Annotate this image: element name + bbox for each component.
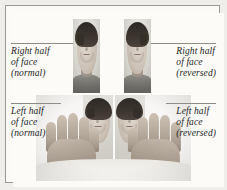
- leader-line-top-right: [151, 43, 216, 44]
- jaw-shadow: [80, 52, 94, 63]
- leader-line-bottom-left: [11, 103, 61, 104]
- label-line-3: (normal): [11, 128, 46, 139]
- label-right-half-reversed: Right half of face (reversed): [176, 46, 216, 80]
- leader-line-top-left: [11, 43, 73, 44]
- jaw-shadow: [130, 52, 144, 63]
- label-line-1: Right half: [176, 46, 216, 57]
- label-line-3: (normal): [11, 68, 50, 79]
- label-left-half-reversed: Left half of face (reversed): [176, 106, 216, 140]
- label-right-half-normal: Right half of face (normal): [11, 46, 50, 80]
- label-line-2: of face: [176, 117, 216, 128]
- label-line-3: (reversed): [176, 68, 216, 79]
- label-line-1: Right half: [11, 46, 50, 57]
- table-surface: [36, 159, 191, 181]
- figure-container: Right half of face (normal) Right half o…: [0, 0, 227, 190]
- hair: [126, 22, 149, 47]
- label-left-half-normal: Left half of face (normal): [11, 106, 46, 140]
- photo-bottom-composite: [36, 95, 191, 181]
- label-line-3: (reversed): [176, 128, 216, 139]
- leader-line-bottom-right: [166, 103, 216, 104]
- label-line-1: Left half: [11, 106, 46, 117]
- photo-right-half-normal: [73, 19, 100, 93]
- portrait-reversed: [124, 19, 151, 93]
- label-line-2: of face: [176, 57, 216, 68]
- portrait-normal: [73, 19, 100, 93]
- photo-right-half-reversed: [124, 19, 151, 93]
- label-line-2: of face: [11, 57, 50, 68]
- label-line-1: Left half: [176, 106, 216, 117]
- label-line-2: of face: [11, 117, 46, 128]
